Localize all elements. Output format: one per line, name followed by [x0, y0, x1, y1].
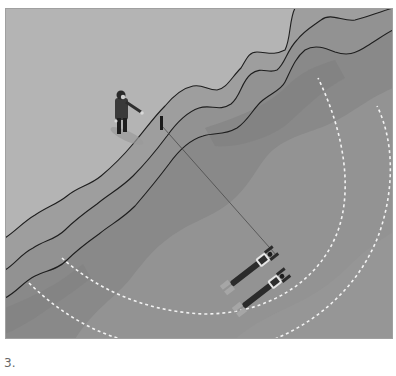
shore-anchor-stake [160, 116, 163, 130]
arc-search-illustration [5, 8, 393, 339]
figure-caption: 3. [4, 356, 15, 370]
